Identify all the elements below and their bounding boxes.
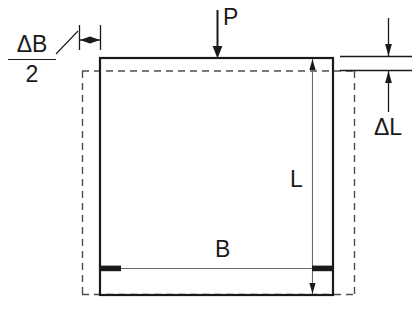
breadth-arrowhead-right bbox=[312, 266, 332, 272]
length-arrowhead-bottom bbox=[309, 283, 315, 294]
length-arrowhead-top bbox=[309, 59, 315, 70]
delta-b-leader-line bbox=[56, 31, 78, 54]
length-label: L bbox=[290, 168, 303, 191]
delta-b-dimension-group bbox=[56, 25, 101, 54]
delta-breadth-over-two-label: ΔB 2 bbox=[8, 33, 56, 86]
delta-breadth-numerator: ΔB bbox=[8, 33, 56, 58]
deformation-diagram: P L B ΔL ΔB 2 bbox=[0, 0, 417, 309]
breadth-label: B bbox=[215, 238, 230, 261]
load-arrow-group bbox=[213, 10, 223, 59]
load-arrow-head bbox=[213, 46, 223, 59]
delta-l-dimension-group bbox=[340, 18, 412, 112]
fraction-bar bbox=[8, 59, 56, 60]
load-label: P bbox=[223, 6, 238, 29]
breadth-arrowhead-left bbox=[101, 266, 121, 272]
diagram-canvas bbox=[0, 0, 417, 309]
breadth-dimension-group bbox=[101, 266, 332, 272]
delta-l-arrowhead-upper bbox=[385, 44, 392, 56]
delta-b-arrowhead-right bbox=[90, 37, 100, 44]
length-dimension-group bbox=[309, 59, 315, 294]
delta-length-label: ΔL bbox=[374, 116, 402, 139]
delta-l-arrowhead-lower bbox=[385, 71, 392, 83]
delta-b-arrowhead-left bbox=[80, 37, 90, 44]
delta-breadth-denominator: 2 bbox=[8, 62, 56, 86]
